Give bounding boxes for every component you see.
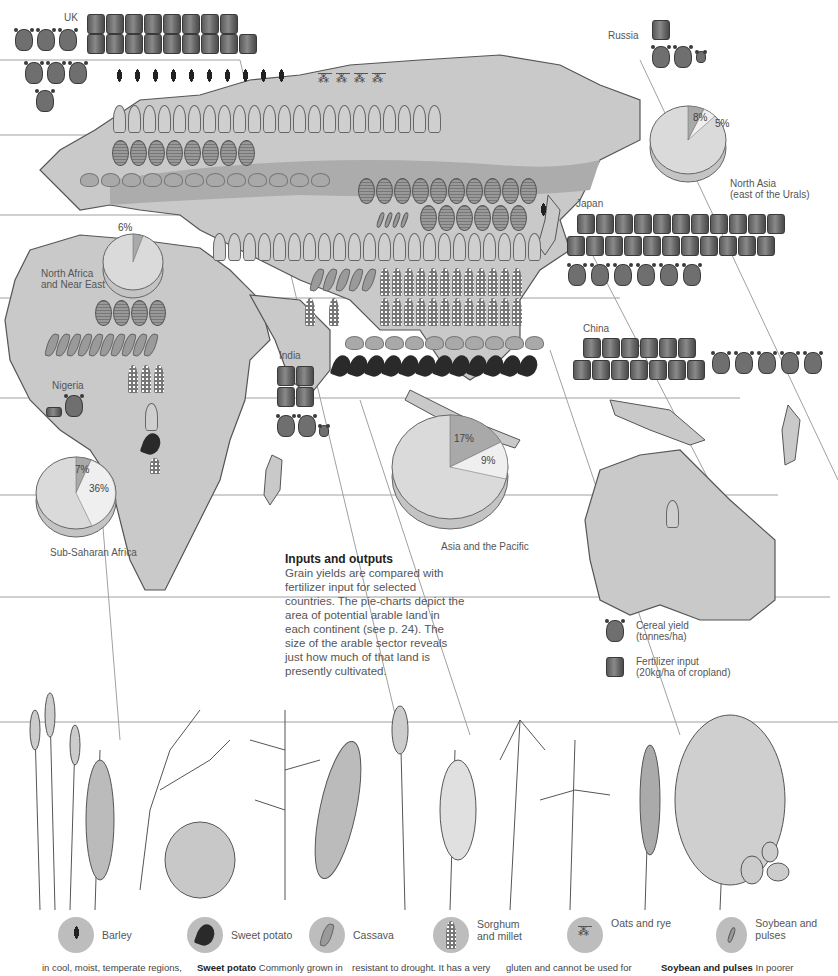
cassava-icon (319, 922, 335, 948)
maize-icon (513, 233, 526, 261)
japan-fertilizer-row-1 (577, 214, 785, 234)
fertilizer-icon (182, 34, 200, 54)
fertilizer-icon (144, 34, 162, 54)
india-yield-row (277, 415, 329, 437)
legend-cereal-yield: Cereal yield (tonnes/ha) (606, 620, 731, 642)
cereal-yield-icon (15, 29, 33, 51)
fertilizer-icon (296, 387, 314, 407)
label-uk: UK (64, 12, 78, 23)
maize-icon (308, 105, 321, 133)
label-asia-pacific: Asia and the Pacific (441, 541, 529, 552)
fertilizer-icon (125, 34, 143, 54)
fertilizer-icon (605, 236, 623, 256)
body-text-soybean: Soybean and pulses In poorer (661, 962, 794, 973)
fertilizer-icon (700, 236, 718, 256)
wheat-icon (412, 178, 429, 204)
fertilizer-icon (649, 360, 667, 380)
fertilizer-icon (87, 34, 105, 54)
china-yield-row (712, 352, 822, 374)
caption-title: Inputs and outputs (285, 552, 465, 566)
crop-block-sorghum-asia (380, 268, 530, 326)
china-fertilizer-row-1 (583, 338, 696, 358)
fertilizer-icon (624, 236, 642, 256)
fertilizer-icon (653, 214, 671, 234)
crop-row-barley-europe (113, 66, 287, 90)
barley-icon (167, 66, 179, 90)
fertilizer-icon (46, 407, 62, 417)
crop-row-rice-africa (95, 300, 166, 326)
wheat-icon (113, 300, 130, 326)
wheat-icon (130, 140, 147, 166)
potato-icon (345, 336, 364, 350)
potato-icon (505, 336, 524, 350)
barley-icon (221, 66, 233, 90)
key-sorghum: Sorghum and millet (433, 917, 522, 953)
uk-yield-row-1 (15, 29, 77, 51)
maize-icon-australia (666, 500, 679, 528)
fertilizer-icon (681, 236, 699, 256)
pie-asia-pacific (392, 415, 508, 529)
fertilizer-icon (220, 14, 238, 34)
crop-row-sweet-potato-asia (333, 355, 537, 377)
fertilizer-icon (630, 360, 648, 380)
potato-icon (101, 173, 120, 187)
potato-icon (485, 336, 504, 350)
sorghum-icon (128, 365, 138, 393)
wheat-icon (166, 140, 183, 166)
new-guinea (610, 400, 705, 445)
maize-icon (408, 233, 421, 261)
potato-icon (227, 173, 246, 187)
wheat-icon (510, 205, 527, 231)
sorghum-icon (416, 268, 426, 296)
label-nigeria: Nigeria (52, 380, 84, 391)
potato-icon (164, 173, 183, 187)
sorghum-icon (440, 268, 450, 296)
fertilizer-icon (611, 360, 629, 380)
maize-icon (218, 105, 231, 133)
fertilizer-icon (602, 338, 620, 358)
madagascar (264, 455, 282, 505)
body-text-sweet-potato: Sweet potato Commonly grown in (197, 962, 343, 973)
pct-asia-pacific-cultivated: 17% (454, 433, 474, 444)
cereal-yield-icon (37, 29, 55, 51)
crop-row-oats-russia (318, 73, 386, 91)
maize-icon (143, 105, 156, 133)
wheat-icon (520, 178, 537, 204)
maize-icon (378, 233, 391, 261)
sorghum-icon (141, 365, 151, 393)
fertilizer-icon (606, 657, 624, 677)
barley-icon (131, 66, 143, 90)
label-india: India (279, 350, 301, 361)
sorghum-icon (428, 298, 438, 326)
fertilizer-icon (144, 14, 162, 34)
sorghum-icon (464, 268, 474, 296)
potato-icon (269, 173, 288, 187)
wheat-icon (420, 205, 437, 231)
sorghum-icon (500, 298, 510, 326)
oats-icon (578, 926, 592, 944)
maize-icon (353, 105, 366, 133)
body-text-barley: in cool, moist, temperate regions, (42, 962, 182, 973)
oats-icon (354, 73, 368, 91)
fertilizer-icon (239, 34, 257, 54)
sorghum-icon (154, 365, 164, 393)
wheat-icon (184, 140, 201, 166)
fertilizer-icon (567, 236, 585, 256)
label-russia: Russia (608, 30, 639, 41)
maize-icon (363, 233, 376, 261)
sorghum-icon (452, 298, 462, 326)
fertilizer-icon (277, 366, 295, 386)
soybean-icon (727, 927, 737, 944)
crop-row-sorghum-africa (128, 365, 164, 393)
cereal-yield-icon (660, 264, 678, 286)
maize-icon (383, 105, 396, 133)
cereal-yield-icon (36, 90, 54, 112)
crop-row-rice-asia-2 (420, 205, 527, 231)
fertilizer-icon (767, 214, 785, 234)
sorghum-icon (476, 298, 486, 326)
potato-icon (143, 173, 162, 187)
india-fertilizer (277, 366, 314, 407)
barley-icon (203, 66, 215, 90)
pie-north-africa (103, 234, 163, 298)
sorghum-icon (446, 921, 456, 949)
